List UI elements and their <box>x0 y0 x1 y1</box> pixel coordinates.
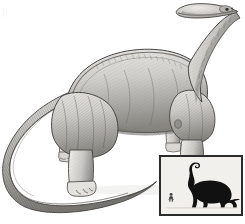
dinosaur-illustration-figure: Grayscale pencil illustration of a long-… <box>0 0 245 224</box>
size-comparison-svg <box>161 157 241 214</box>
eye <box>225 8 228 11</box>
size-comparison-inset <box>159 155 243 216</box>
